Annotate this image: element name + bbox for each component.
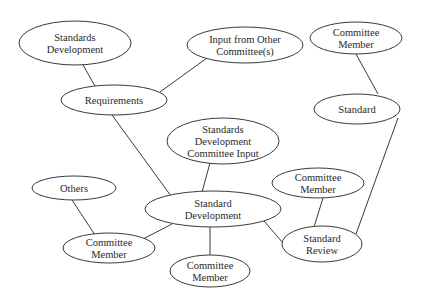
node-label: Committee	[295, 172, 342, 183]
node-sd-committee-input: StandardsDevelopmentCommittee Input	[167, 118, 279, 164]
node-label: Member	[192, 272, 228, 283]
edge-standard-development-to-standard-review	[264, 221, 283, 243]
node-label: Committee	[187, 260, 234, 271]
node-label: Standards	[54, 32, 95, 43]
node-committee-member-bottom: CommitteeMember	[170, 255, 250, 287]
edge-requirements-to-standard-development	[112, 115, 171, 196]
edge-others-to-committee-member-left	[72, 200, 95, 235]
node-standard-review: StandardReview	[282, 226, 362, 262]
node-committee-member-left: CommitteeMember	[63, 233, 155, 263]
node-label: Review	[306, 245, 338, 256]
node-label: Requirements	[85, 95, 143, 106]
node-label: Committee	[86, 237, 133, 248]
node-label: Member	[300, 184, 336, 195]
node-label: Development	[185, 210, 242, 221]
node-standard: Standard	[314, 94, 400, 124]
node-label: Member	[91, 249, 127, 260]
node-committee-member-top: CommitteeMember	[310, 22, 402, 54]
node-standards-development: StandardsDevelopment	[19, 21, 131, 65]
edge-committee-member-top-to-standard	[356, 54, 378, 94]
edge-input-other-committees-to-requirements	[160, 58, 207, 92]
node-input-other-committees: Input from OtherCommittee(s)	[187, 27, 303, 63]
node-standard-development: StandardDevelopment	[145, 191, 281, 227]
edge-standards-development-to-requirements	[83, 65, 95, 86]
node-label: Committee(s)	[216, 46, 274, 58]
node-label: Committee	[333, 27, 380, 38]
edge-standard-to-standard-review	[356, 118, 398, 234]
node-label: Standard	[194, 198, 232, 209]
node-label: Committee Input	[187, 148, 259, 159]
edge-sd-committee-input-to-standard-development	[202, 163, 210, 192]
edge-committee-member-left-to-standard-development	[143, 224, 172, 239]
node-label: Member	[338, 39, 374, 50]
concept-diagram: StandardsDevelopmentInput from OtherComm…	[0, 0, 430, 303]
node-label: Standard	[338, 104, 376, 115]
edge-committee-member-right-to-standard-review	[314, 198, 323, 227]
node-label: Standard	[303, 233, 341, 244]
node-label: Standards	[202, 124, 243, 135]
node-others: Others	[32, 176, 116, 200]
node-label: Input from Other	[209, 34, 281, 45]
node-committee-member-right: CommitteeMember	[272, 168, 364, 198]
node-label: Development	[47, 44, 104, 55]
node-label: Development	[195, 136, 252, 147]
node-label: Others	[60, 183, 88, 194]
node-requirements: Requirements	[61, 85, 167, 115]
